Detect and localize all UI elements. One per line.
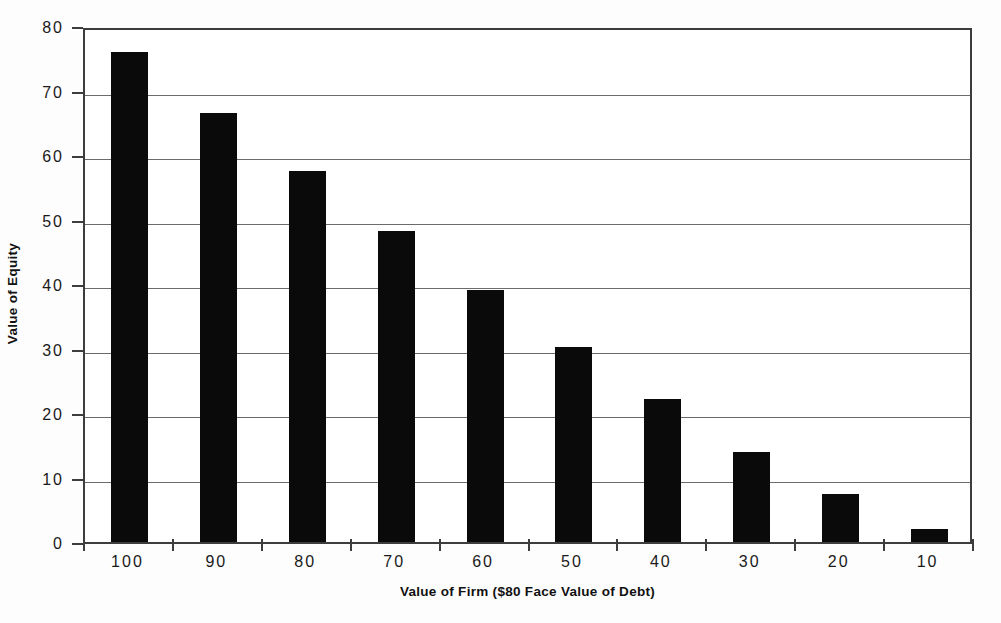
y-axis-tick-label: 30 [42, 342, 64, 360]
x-axis-tick-mark [172, 539, 174, 551]
y-axis-title: Value of Equity [5, 194, 20, 394]
bar [111, 52, 148, 542]
x-axis-tick-label: 30 [739, 553, 761, 571]
y-axis-tick-label: 10 [42, 471, 64, 489]
x-axis-tick-label: 40 [650, 553, 672, 571]
y-axis-tick-mark [72, 543, 83, 545]
x-axis-tick-label: 10 [917, 553, 939, 571]
bar [555, 347, 592, 542]
y-axis-tick-label: 0 [53, 535, 64, 553]
x-axis-tick-mark [439, 539, 441, 551]
y-axis-tick-label: 80 [42, 19, 64, 37]
y-axis-tick-mark [72, 221, 83, 223]
x-axis-tick-label: 20 [828, 553, 850, 571]
y-axis-tick-label: 50 [42, 213, 64, 231]
y-axis-tick-mark [72, 92, 83, 94]
x-axis-tick-mark [616, 539, 618, 551]
y-axis-tick-mark [72, 414, 83, 416]
x-axis-tick-mark [794, 539, 796, 551]
x-axis-tick-mark [705, 539, 707, 551]
y-axis-tick-label: 20 [42, 406, 64, 424]
x-axis-tick-labels: 100908070605040302010 [83, 553, 972, 579]
bar [200, 113, 237, 542]
x-axis-tick-mark [83, 539, 85, 551]
bar [378, 231, 415, 542]
y-axis-tick-mark [72, 156, 83, 158]
chart-figure: 01020304050607080 Value of Equity 100908… [0, 0, 1001, 623]
x-axis-tick-label: 50 [561, 553, 583, 571]
bar [733, 452, 770, 542]
x-axis-tick-mark [261, 539, 263, 551]
bar [467, 290, 504, 542]
x-axis-tick-mark [883, 539, 885, 551]
y-axis-tick-label: 40 [42, 277, 64, 295]
bar [911, 529, 948, 542]
x-axis-tick-label: 60 [472, 553, 494, 571]
gridline [85, 95, 970, 96]
x-axis-title: Value of Firm ($80 Face Value of Debt) [83, 584, 972, 599]
x-axis-tick-label: 90 [205, 553, 227, 571]
x-axis-tick-mark [528, 539, 530, 551]
plot-area [83, 28, 972, 544]
y-axis-tick-label: 60 [42, 148, 64, 166]
y-axis-tick-label: 70 [42, 84, 64, 102]
x-axis-tick-label: 80 [294, 553, 316, 571]
y-axis-tick-mark [72, 350, 83, 352]
x-axis-tick-mark [350, 539, 352, 551]
y-axis-tick-mark [72, 285, 83, 287]
x-axis-tick-mark [972, 539, 974, 551]
bar [822, 494, 859, 542]
bar [289, 171, 326, 542]
x-axis-tick-label: 70 [383, 553, 405, 571]
bar [644, 399, 681, 542]
x-axis-tick-label: 100 [111, 553, 144, 571]
y-axis-tick-mark [72, 479, 83, 481]
y-axis-tick-mark [72, 27, 83, 29]
